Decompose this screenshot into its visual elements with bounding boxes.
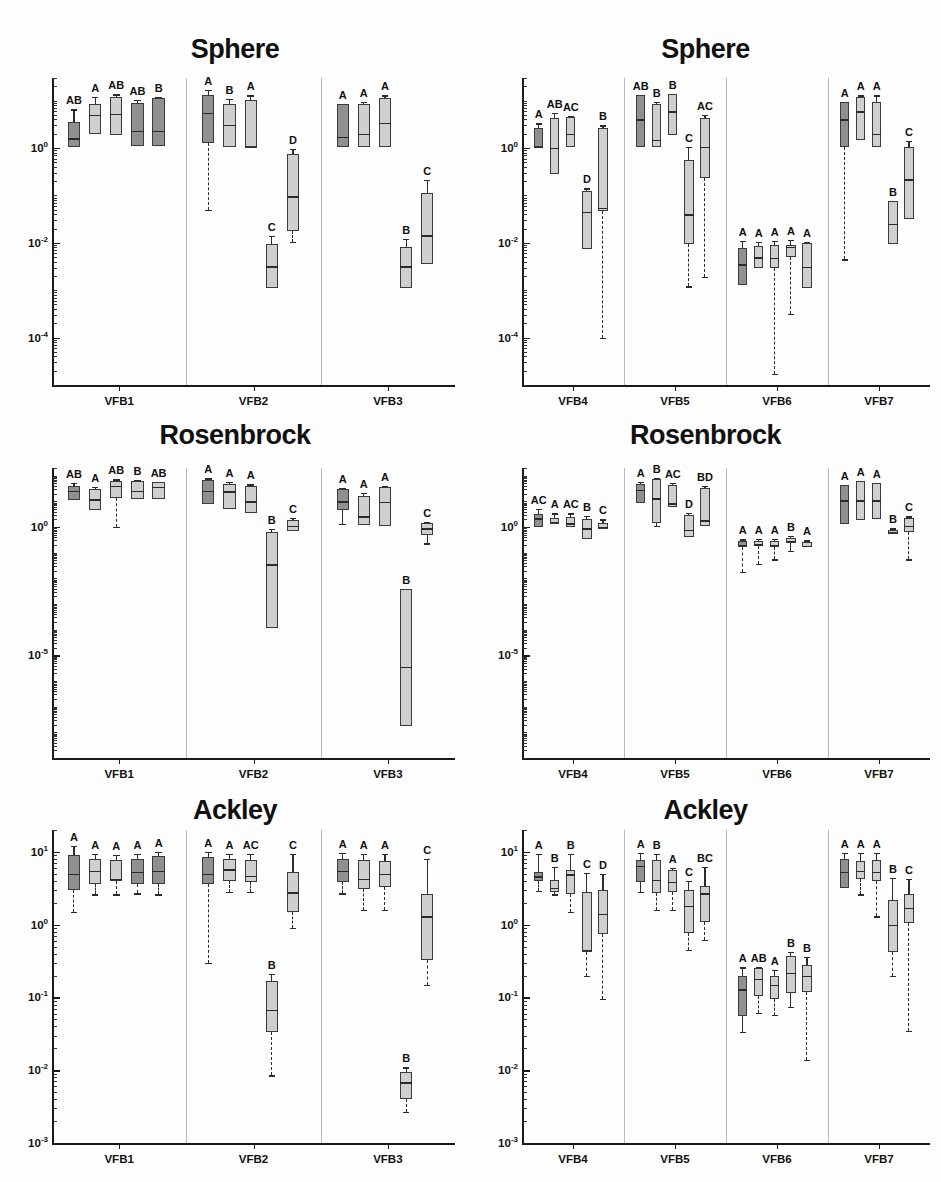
whisker-lower [742, 547, 743, 572]
box-plot-box [110, 97, 122, 135]
significance-letter: B [657, 79, 689, 91]
group-divider [624, 468, 625, 758]
y-minor-tick [523, 477, 527, 478]
box-plot-box [598, 128, 607, 211]
box-median-line [223, 491, 235, 492]
y-minor-tick [53, 245, 57, 246]
box-plot-box [700, 886, 709, 922]
y-minor-tick [53, 105, 57, 106]
box-median-line [68, 874, 80, 875]
y-minor-tick [53, 476, 57, 477]
y-minor-tick [523, 340, 527, 341]
y-minor-tick [523, 717, 527, 718]
y-major-tick [523, 1143, 530, 1144]
y-minor-tick [53, 483, 57, 484]
whisker-lower [342, 510, 343, 525]
y-minor-tick [523, 708, 527, 709]
y-minor-tick [523, 86, 527, 87]
y-minor-tick [523, 738, 527, 739]
y-minor-tick [53, 631, 57, 632]
y-minor-tick [53, 608, 57, 609]
x-axis-category-label: VFB2 [214, 1153, 294, 1165]
whisker-cap-lower [686, 950, 692, 951]
whisker-cap-lower [584, 976, 590, 977]
y-minor-tick [53, 640, 57, 641]
y-label-exponent: -2 [511, 235, 518, 244]
y-minor-tick [523, 519, 527, 520]
y-minor-tick [523, 530, 527, 531]
y-minor-tick [53, 661, 57, 662]
y-minor-tick [523, 342, 527, 343]
whisker-cap-lower [772, 559, 778, 560]
box-median-line [131, 872, 143, 873]
y-label-base: 10 [498, 1137, 511, 1149]
y-minor-tick [523, 936, 527, 937]
whisker-cap-lower [906, 1031, 912, 1032]
whisker-cap-upper [568, 513, 574, 514]
box-median-line [202, 113, 214, 114]
y-axis-label: 100 [476, 917, 518, 931]
y-label-base: 10 [498, 1064, 511, 1076]
y-minor-tick [523, 167, 527, 168]
y-minor-tick [53, 691, 57, 692]
y-minor-tick [53, 711, 57, 712]
y-minor-tick [53, 486, 57, 487]
y-minor-tick [523, 554, 527, 555]
y-minor-tick [53, 694, 57, 695]
y-label-base: 10 [498, 331, 511, 343]
y-minor-tick [53, 111, 57, 112]
box-median-line [700, 893, 709, 894]
box-plot-box [131, 103, 143, 146]
y-minor-tick [53, 1048, 57, 1049]
y-minor-tick [53, 709, 57, 710]
whisker-lower [271, 1032, 272, 1075]
box-plot-box [738, 248, 747, 285]
y-label-exponent: -4 [41, 330, 48, 339]
box-median-line [358, 134, 370, 135]
whisker-cap-upper [638, 853, 644, 854]
whisker-cap-lower [226, 892, 232, 893]
y-minor-tick [523, 198, 527, 199]
whisker-cap-upper [382, 854, 388, 855]
whisker-upper [602, 874, 603, 890]
whisker-upper [427, 180, 428, 192]
y-minor-tick [53, 257, 57, 258]
y-minor-tick [523, 103, 527, 104]
whisker-cap-upper [584, 873, 590, 874]
whisker-lower [538, 881, 539, 891]
y-axis-label: 101 [6, 844, 48, 858]
whisker-lower [688, 933, 689, 950]
box-plot-box [337, 489, 349, 509]
whisker-lower [116, 881, 117, 895]
y-minor-tick [523, 608, 527, 609]
x-axis-category-label: VFB1 [79, 768, 159, 780]
y-minor-tick [523, 725, 527, 726]
y-minor-tick [53, 903, 57, 904]
panel-title: Ackley [0, 795, 470, 826]
group-divider [828, 830, 829, 1143]
y-minor-tick [523, 617, 527, 618]
y-minor-tick [523, 352, 527, 353]
y-minor-tick [523, 881, 527, 882]
whisker-lower [892, 952, 893, 975]
box-median-line [421, 235, 433, 236]
box-median-line [287, 526, 299, 527]
box-plot-box [202, 857, 214, 884]
box-plot-box [266, 532, 278, 627]
y-minor-tick [53, 509, 57, 510]
box-plot-box [358, 104, 370, 147]
y-minor-tick [523, 954, 527, 955]
box-plot-box [840, 485, 849, 524]
whisker-cap-lower [134, 893, 140, 894]
y-minor-tick [53, 530, 57, 531]
box-median-line [400, 1082, 412, 1083]
whisker-cap-upper [702, 867, 708, 868]
box-plot-box [287, 154, 299, 231]
group-divider [726, 468, 727, 758]
y-minor-tick [523, 687, 527, 688]
y-minor-tick [53, 663, 57, 664]
y-minor-tick [53, 173, 57, 174]
y-minor-tick [53, 501, 57, 502]
whisker-lower [427, 960, 428, 985]
significance-letter: C [256, 221, 288, 233]
